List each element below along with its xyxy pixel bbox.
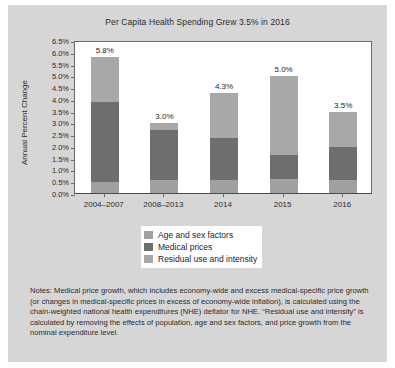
- bar-value-label: 3.0%: [155, 112, 173, 121]
- chart-notes: Notes: Medical price growth, which inclu…: [30, 286, 372, 339]
- x-axis-tick-label: 2008–2013: [143, 200, 183, 209]
- y-axis-tick-label: 5.5%: [52, 61, 69, 70]
- y-axis-tick-mark: [71, 183, 75, 184]
- plot-area: 0.0%0.5%1.0%1.5%2.0%2.5%3.0%3.5%4.0%4.5%…: [74, 41, 372, 194]
- y-axis-title: Annual Percent Change: [20, 63, 29, 183]
- y-axis-tick-label: 4.5%: [52, 84, 69, 93]
- y-axis-tick-mark: [71, 160, 75, 161]
- y-axis-tick-label: 0.0%: [52, 190, 69, 199]
- bar-segment[interactable]: [210, 93, 238, 138]
- y-axis-tick-label: 0.5%: [52, 178, 69, 187]
- y-axis-tick-label: 2.0%: [52, 143, 69, 152]
- bar-value-label: 4.3%: [215, 82, 233, 91]
- bar-segment[interactable]: [150, 130, 178, 179]
- y-axis-tick-label: 3.0%: [52, 119, 69, 128]
- stacked-bar[interactable]: 3.5%: [329, 41, 357, 194]
- bar-segment[interactable]: [91, 57, 119, 102]
- chart-legend: Age and sex factorsMedical pricesResidua…: [141, 226, 262, 268]
- chart-card: Per Capita Health Spending Grew 3.5% in …: [8, 5, 387, 362]
- y-axis-tick-mark: [71, 101, 75, 102]
- bar-segment[interactable]: [150, 180, 178, 194]
- stacked-bar[interactable]: 5.0%: [270, 41, 298, 194]
- legend-swatch-icon: [144, 243, 153, 251]
- y-axis-tick-mark: [71, 113, 75, 114]
- y-axis-tick-label: 5.0%: [52, 72, 69, 81]
- y-axis-tick-label: 3.5%: [52, 108, 69, 117]
- y-axis-tick-mark: [71, 54, 75, 55]
- legend-item[interactable]: Residual use and intensity: [144, 253, 257, 265]
- x-axis-tick-label: 2016: [333, 200, 351, 209]
- y-axis-tick-label: 6.5%: [52, 37, 69, 46]
- x-axis-tick-mark: [223, 193, 224, 197]
- y-axis-tick-mark: [71, 124, 75, 125]
- chart-title: Per Capita Health Spending Grew 3.5% in …: [8, 17, 387, 27]
- bar-segment[interactable]: [329, 147, 357, 180]
- bar-segment[interactable]: [91, 102, 119, 182]
- bar-segment[interactable]: [329, 180, 357, 194]
- bar-value-label: 3.5%: [334, 101, 352, 110]
- legend-item-label: Medical prices: [158, 242, 212, 252]
- y-axis-tick-mark: [71, 148, 75, 149]
- bar-segment[interactable]: [210, 180, 238, 194]
- x-axis-tick-mark: [342, 193, 343, 197]
- y-axis-tick-mark: [71, 171, 75, 172]
- y-axis-tick-label: 4.0%: [52, 96, 69, 105]
- y-axis-tick-label: 1.0%: [52, 166, 69, 175]
- legend-item[interactable]: Medical prices: [144, 241, 257, 253]
- stacked-bar[interactable]: 4.3%: [210, 41, 238, 194]
- x-axis-tick-label: 2015: [274, 200, 292, 209]
- y-axis-tick-mark: [71, 66, 75, 67]
- legend-swatch-icon: [144, 231, 153, 239]
- bar-segment[interactable]: [150, 123, 178, 130]
- bar-segment[interactable]: [270, 179, 298, 194]
- y-axis-tick-label: 6.0%: [52, 49, 69, 58]
- bar-segment[interactable]: [329, 112, 357, 147]
- legend-item-label: Residual use and intensity: [158, 254, 257, 264]
- y-axis-tick-mark: [71, 136, 75, 137]
- stacked-bar[interactable]: 3.0%: [150, 41, 178, 194]
- y-axis-tick-mark: [71, 195, 75, 196]
- x-axis-tick-mark: [104, 193, 105, 197]
- stacked-bar[interactable]: 5.8%: [91, 41, 119, 194]
- legend-item[interactable]: Age and sex factors: [144, 229, 257, 241]
- bar-segment[interactable]: [270, 76, 298, 155]
- y-axis-tick-mark: [71, 42, 75, 43]
- y-axis-tick-mark: [71, 77, 75, 78]
- x-axis-tick-label: 2004–2007: [84, 200, 124, 209]
- y-axis-tick-mark: [71, 89, 75, 90]
- legend-swatch-icon: [144, 255, 153, 263]
- bar-value-label: 5.0%: [274, 65, 292, 74]
- x-axis-tick-mark: [163, 193, 164, 197]
- x-axis-tick-label: 2014: [214, 200, 232, 209]
- legend-item-label: Age and sex factors: [158, 230, 233, 240]
- bar-segment[interactable]: [210, 138, 238, 180]
- x-axis-tick-mark: [283, 193, 284, 197]
- y-axis-tick-label: 2.5%: [52, 131, 69, 140]
- bar-value-label: 5.8%: [96, 46, 114, 55]
- bar-segment[interactable]: [270, 155, 298, 179]
- y-axis-tick-label: 1.5%: [52, 155, 69, 164]
